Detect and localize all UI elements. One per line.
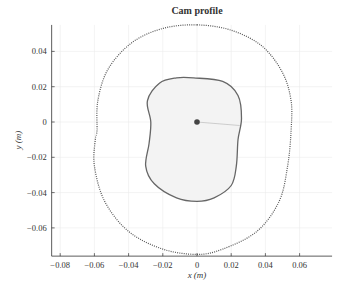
x-tick-label: −0.08 <box>50 260 70 270</box>
y-tick-label: 0.04 <box>32 46 48 56</box>
x-tick-label: −0.06 <box>85 260 105 270</box>
x-tick-label: 0 <box>195 260 199 270</box>
y-tick-label: −0.02 <box>27 152 47 162</box>
x-tick-label: 0.06 <box>292 260 307 270</box>
y-tick-label: −0.04 <box>27 188 47 198</box>
cam-profile-curve <box>146 77 242 201</box>
x-tick-label: −0.02 <box>153 260 173 270</box>
x-axis-label: x (m) <box>187 270 207 280</box>
x-tick-label: 0.04 <box>258 260 274 270</box>
y-tick-label: 0 <box>42 117 46 127</box>
chart-title: Cam profile <box>171 5 223 16</box>
y-tick-label: 0.02 <box>32 82 47 92</box>
y-tick-label: −0.06 <box>27 223 47 233</box>
cam-profile-chart: −0.08−0.06−0.04−0.0200.020.040.060.040.0… <box>0 0 346 294</box>
x-tick-label: −0.04 <box>119 260 139 270</box>
x-tick-label: 0.02 <box>224 260 239 270</box>
y-axis-label: y (m) <box>13 131 23 151</box>
cam-center-point <box>194 119 200 125</box>
